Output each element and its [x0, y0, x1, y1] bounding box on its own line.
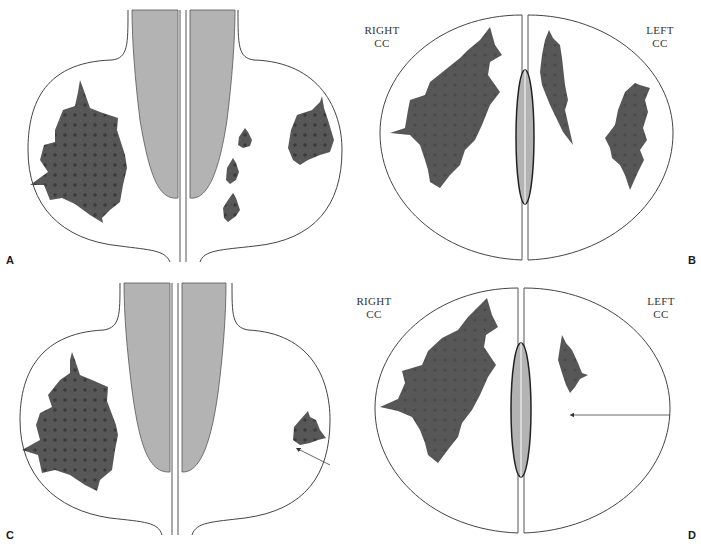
panel-letter-a: A [6, 254, 14, 266]
panel-d: RIGHT CC LEFT CC D [350, 275, 701, 549]
mlo-diagram-c [0, 275, 350, 549]
lesion-small-1 [238, 128, 252, 148]
panel-letter-b: B [688, 254, 696, 266]
pectoral-muscle-right [182, 283, 226, 472]
left-cc-label-line1: LEFT [640, 24, 680, 37]
right-cc-label: RIGHT CC [354, 295, 394, 321]
left-breast-cc-outline [524, 288, 670, 533]
right-cc-label-line1: RIGHT [354, 295, 394, 308]
lesion-small-left [558, 335, 588, 393]
lesion-large [22, 352, 118, 491]
lesion-small-3 [223, 193, 240, 222]
pectoral-muscle-left [132, 10, 178, 198]
lesion-upper-left [540, 30, 573, 145]
right-cc-label-line2: CC [354, 308, 394, 321]
lesion-large-right [380, 298, 498, 463]
right-cc-label-line1: RIGHT [362, 24, 402, 37]
lesion-small-2 [226, 158, 239, 184]
lesion-large [30, 80, 127, 223]
lesion-outer-left [605, 83, 650, 190]
right-cc-label: RIGHT CC [362, 24, 402, 50]
panel-letter-d: D [688, 529, 696, 541]
left-cc-label: LEFT CC [640, 24, 680, 50]
panel-a: A [0, 0, 350, 275]
left-cc-label-line1: LEFT [641, 295, 681, 308]
lesion-large-right [390, 27, 502, 188]
left-cc-label-line2: CC [640, 37, 680, 50]
lesion-small [293, 411, 326, 445]
panel-letter-c: C [6, 529, 14, 541]
mlo-diagram-a [0, 0, 350, 275]
left-cc-label: LEFT CC [641, 295, 681, 321]
pectoral-muscle-left [124, 283, 170, 472]
panel-b: RIGHT CC LEFT CC B [350, 0, 701, 275]
right-cc-label-line2: CC [362, 37, 402, 50]
lesion-medium [288, 96, 334, 165]
panel-c: C [0, 275, 350, 549]
left-cc-label-line2: CC [641, 308, 681, 321]
